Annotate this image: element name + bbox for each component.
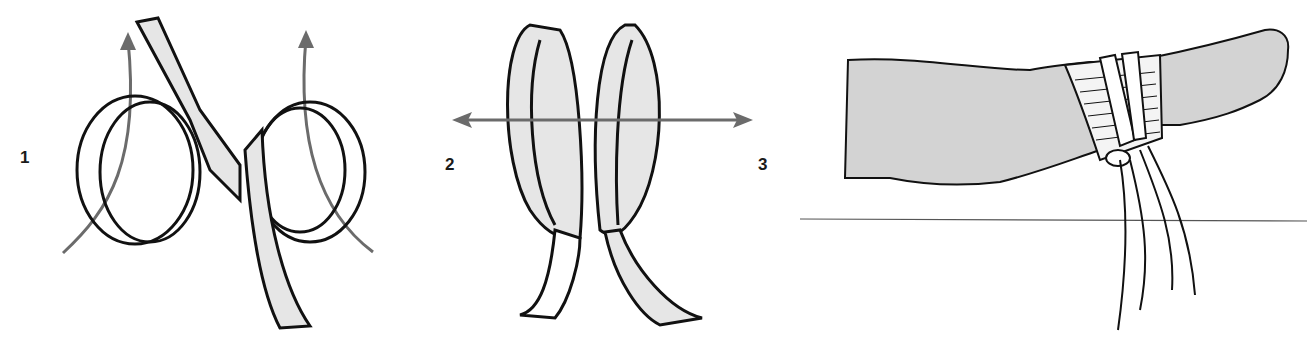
up-arrow-left-icon <box>63 40 131 253</box>
step-2-panel: 2 3 <box>420 0 800 356</box>
forearm-shape <box>845 59 1100 184</box>
step-3-label: 3 <box>758 155 767 175</box>
step-2-label: 2 <box>445 155 454 175</box>
step-1-panel: 1 <box>0 0 420 356</box>
knot <box>1106 150 1130 166</box>
two-loops-illustration <box>0 0 420 356</box>
step-1-label: 1 <box>20 148 29 168</box>
arm-restraint-illustration <box>800 0 1307 356</box>
figure-caption <box>530 332 750 346</box>
bandage-ends <box>1118 146 1195 330</box>
table-edge-line <box>800 219 1307 221</box>
hand-shape <box>1150 30 1288 125</box>
step-3-panel <box>800 0 1307 356</box>
side-by-side-loops-illustration <box>420 0 800 356</box>
up-arrow-right-icon <box>304 38 373 252</box>
